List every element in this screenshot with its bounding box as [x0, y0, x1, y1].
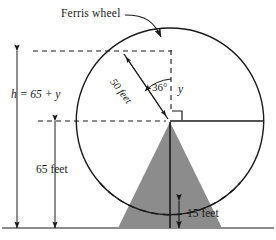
clearance-label: 15 feet [187, 208, 219, 220]
ferris-wheel-pointer-arrow [125, 15, 161, 37]
angle-label: 36° [152, 82, 167, 93]
vertical-offset-label: y [178, 84, 183, 96]
right-angle-marker [172, 111, 182, 120]
radius-arrow-upper [126, 57, 146, 86]
total-height-label: h = 65 + y [11, 89, 60, 101]
wheel-label: Ferris wheel [61, 8, 121, 20]
diagram-canvas [0, 0, 276, 240]
ferris-wheel-diagram: Ferris wheel h = 65 + y 65 feet 50 feet … [0, 0, 276, 240]
hub-height-label: 65 feet [36, 164, 68, 176]
